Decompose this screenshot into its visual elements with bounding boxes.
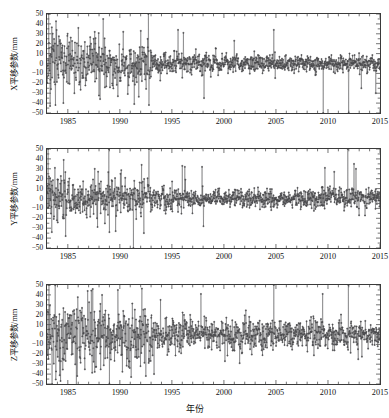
y-tick-label: −40: [32, 370, 43, 377]
y-tick-label: −20: [32, 351, 43, 358]
data-markers-3: [47, 285, 380, 384]
series-canvas-3: [47, 285, 380, 384]
x-tick-label: 2000: [216, 389, 232, 397]
y-tick-label: 50: [36, 281, 43, 288]
figure-root: 50403020100−10−20−30−40−5019851990199520…: [0, 0, 389, 418]
y-tick-label: −30: [32, 360, 43, 367]
x-axis-title: 年份: [0, 402, 389, 415]
y-tick-label: 10: [36, 321, 43, 328]
y-tick-label: −10: [32, 341, 43, 348]
y-axis-title-3: Z平移参数/mm: [6, 279, 18, 390]
x-tick-label: 2010: [320, 389, 336, 397]
y-tick-label: 40: [36, 291, 43, 298]
plot-area-3: [46, 284, 381, 385]
x-tick-label: 1995: [164, 389, 180, 397]
x-tick-label: 1985: [60, 389, 76, 397]
y-tick-label: 0: [39, 331, 43, 338]
y-tick-label: 30: [36, 301, 43, 308]
y-tick-label: 20: [36, 311, 43, 318]
y-tick-label: −50: [32, 380, 43, 387]
chart-panel-3: 50403020100−10−20−30−40−5019851990199520…: [0, 0, 389, 418]
x-tick-label: 2015: [372, 389, 388, 397]
x-tick-label: 1990: [112, 389, 128, 397]
x-tick-label: 2005: [268, 389, 284, 397]
